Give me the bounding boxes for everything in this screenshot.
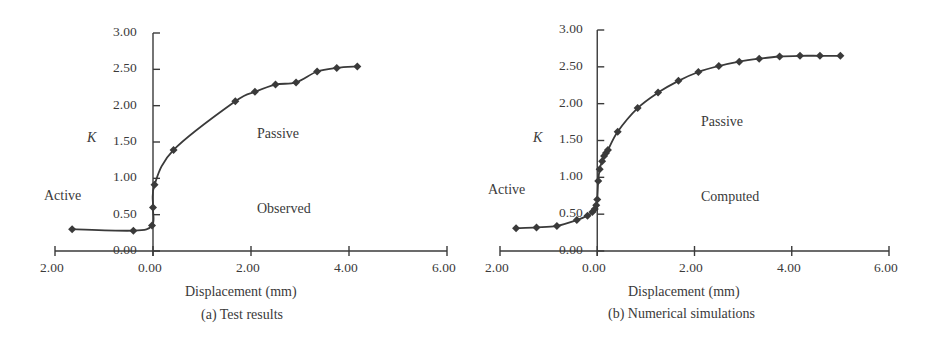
region-label-passive: Passive — [701, 114, 743, 130]
x-axis-label: Displacement (mm) — [628, 284, 740, 300]
x-tick-label: 2.00 — [485, 260, 509, 276]
diamond-marker-icon — [816, 52, 824, 60]
y-tick-label: 2.50 — [559, 58, 583, 74]
diamond-marker-icon — [553, 222, 561, 230]
diamond-marker-icon — [755, 55, 763, 63]
chart-caption-b: (b) Numerical simulations — [608, 306, 755, 322]
diamond-marker-icon — [674, 77, 682, 85]
diamond-marker-icon — [715, 62, 723, 70]
x-tick-label: 0.00 — [582, 260, 606, 276]
x-tick-label: 2.00 — [679, 260, 703, 276]
diamond-marker-icon — [836, 52, 844, 60]
diamond-marker-icon — [512, 224, 520, 232]
y-tick-label: 2.00 — [559, 95, 583, 111]
y-tick-label: 0.00 — [559, 242, 583, 258]
y-tick-label: 0.50 — [559, 205, 583, 221]
chart-b-plot — [0, 0, 940, 343]
diamond-marker-icon — [594, 177, 602, 185]
diamond-marker-icon — [776, 53, 784, 61]
y-axis-label: K — [533, 130, 542, 146]
diamond-marker-icon — [532, 223, 540, 231]
diamond-marker-icon — [735, 58, 743, 66]
curve-label-computed: Computed — [701, 189, 759, 205]
diamond-marker-icon — [796, 52, 804, 60]
x-tick-label: 6.00 — [874, 260, 898, 276]
region-label-active: Active — [488, 182, 525, 198]
diamond-marker-icon — [694, 68, 702, 76]
y-tick-label: 3.00 — [559, 21, 583, 37]
y-tick-label: 1.50 — [559, 131, 583, 147]
x-tick-label: 4.00 — [777, 260, 801, 276]
diamond-marker-icon — [593, 195, 601, 203]
y-tick-label: 1.00 — [559, 168, 583, 184]
